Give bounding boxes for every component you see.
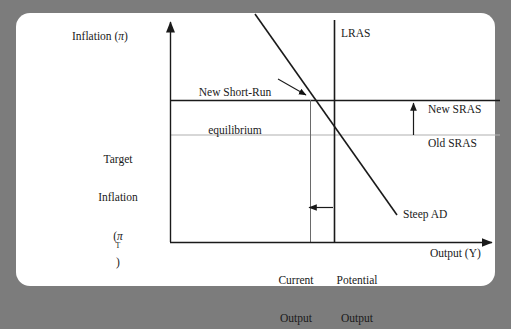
potential-output-label: Potential Output: [326, 248, 388, 329]
target-label-line2: Inflation: [80, 191, 156, 204]
steep-ad-label: Steep AD: [403, 208, 447, 221]
x-axis-label: Output (Y): [430, 247, 481, 260]
target-pi-close: ): [80, 256, 156, 269]
current-output-line2: Output: [268, 312, 324, 325]
equilibrium-label-line2: equilibrium: [182, 124, 288, 137]
new-sras-label: New SRAS: [428, 103, 481, 116]
y-axis-label: Inflation (π): [72, 30, 128, 43]
new-short-run-equilibrium-label: New Short-Run equilibrium: [182, 60, 288, 163]
target-inflation-label: Target Inflation (πT): [80, 127, 156, 294]
lras-label: LRAS: [341, 27, 370, 40]
potential-output-line2: Output: [326, 312, 388, 325]
target-label-line3: (πT): [80, 230, 156, 269]
potential-output-line1: Potential: [326, 274, 388, 287]
equilibrium-label-line1: New Short-Run: [182, 86, 288, 99]
old-sras-label: Old SRAS: [428, 137, 477, 150]
target-pi-superscript: T: [116, 241, 121, 250]
current-output-line1: Current: [268, 274, 324, 287]
target-label-line1: Target: [80, 153, 156, 166]
current-output-label: Current Output: [268, 248, 324, 329]
